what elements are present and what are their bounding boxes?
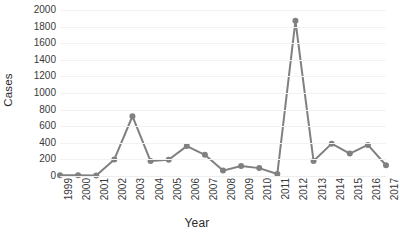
x-tick-label: 2001 <box>100 178 110 200</box>
plot-area <box>60 10 386 176</box>
data-point-marker <box>129 113 135 119</box>
y-tick-label: 1600 <box>18 38 56 48</box>
data-point-marker <box>238 163 244 169</box>
gridline <box>60 60 386 61</box>
y-tick-label: 400 <box>18 138 56 148</box>
gridline <box>60 76 386 77</box>
x-tick-label: 2007 <box>209 178 219 200</box>
x-tick-label: 2008 <box>227 178 237 200</box>
x-axis-tick-labels: 1999200020012002200320042005200620072008… <box>60 178 386 212</box>
gridline <box>60 27 386 28</box>
data-point-marker <box>184 143 190 149</box>
data-point-marker <box>383 162 389 168</box>
gridline <box>60 159 386 160</box>
x-tick-label: 2005 <box>173 178 183 200</box>
y-tick-label: 200 <box>18 154 56 164</box>
x-tick-label: 2013 <box>318 178 328 200</box>
y-tick-label: 1400 <box>18 55 56 65</box>
gridline <box>60 43 386 44</box>
y-tick-label: 0 <box>18 171 56 181</box>
gridline <box>60 10 386 11</box>
x-tick-label: 2004 <box>155 178 165 200</box>
gridline <box>60 176 386 177</box>
x-tick-label: 2011 <box>281 178 291 200</box>
data-point-marker <box>220 168 226 174</box>
data-point-marker <box>256 165 262 171</box>
y-tick-label: 600 <box>18 121 56 131</box>
y-axis-tick-labels: 0200400600800100012001400160018002000 <box>18 0 56 238</box>
y-tick-label: 1000 <box>18 88 56 98</box>
x-tick-label: 2012 <box>299 178 309 200</box>
data-point-marker <box>202 152 208 158</box>
data-point-marker <box>292 18 298 24</box>
gridline <box>60 126 386 127</box>
y-tick-label: 1200 <box>18 71 56 81</box>
x-tick-label: 2002 <box>118 178 128 200</box>
x-tick-label: 2015 <box>354 178 364 200</box>
x-tick-label: 2000 <box>82 178 92 200</box>
gridline <box>60 110 386 111</box>
x-tick-label: 2006 <box>191 178 201 200</box>
x-tick-label: 2016 <box>372 178 382 200</box>
x-axis-title: Year <box>0 216 394 230</box>
y-tick-label: 800 <box>18 105 56 115</box>
y-axis-title: Cases <box>2 60 14 120</box>
y-tick-label: 2000 <box>18 5 56 15</box>
y-tick-label: 1800 <box>18 22 56 32</box>
x-tick-label: 2010 <box>263 178 273 200</box>
x-tick-label: 2014 <box>336 178 346 200</box>
gridline <box>60 143 386 144</box>
x-tick-label: 1999 <box>64 178 74 200</box>
x-tick-label: 2003 <box>136 178 146 200</box>
x-tick-label: 2017 <box>390 178 400 200</box>
x-tick-label: 2009 <box>245 178 255 200</box>
data-point-marker <box>347 151 353 157</box>
gridline <box>60 93 386 94</box>
